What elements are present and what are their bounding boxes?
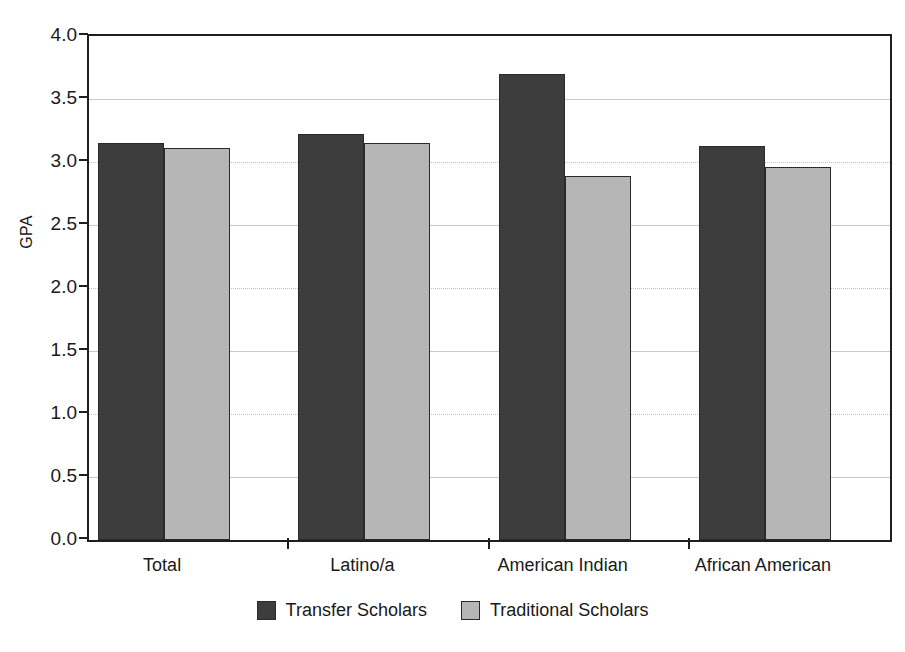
bar bbox=[499, 74, 565, 540]
chart-legend: Transfer ScholarsTraditional Scholars bbox=[0, 600, 905, 620]
bar bbox=[98, 143, 164, 540]
x-axis-category-label: American Indian bbox=[498, 553, 628, 577]
plot-area bbox=[87, 34, 892, 542]
y-axis-tick-labels: 0.00.51.01.52.02.53.03.54.0 bbox=[12, 34, 77, 538]
y-tick-label: 3.0 bbox=[17, 151, 77, 170]
x-axis-tick-marks bbox=[87, 538, 888, 550]
legend-item: Traditional Scholars bbox=[461, 600, 648, 620]
legend-swatch-icon bbox=[257, 601, 276, 620]
legend-label: Transfer Scholars bbox=[286, 600, 427, 620]
y-tick-label: 0.0 bbox=[17, 529, 77, 548]
y-tick-label: 1.0 bbox=[17, 403, 77, 422]
x-axis-labels: TotalLatino/aAmerican IndianAfrican Amer… bbox=[87, 553, 888, 583]
bar bbox=[164, 148, 230, 540]
y-tick-label: 0.5 bbox=[17, 466, 77, 485]
x-axis-category-label: Total bbox=[143, 553, 181, 577]
bar bbox=[765, 167, 831, 540]
legend-item: Transfer Scholars bbox=[257, 600, 427, 620]
y-tick-label: 2.0 bbox=[17, 277, 77, 296]
x-tick-mark bbox=[287, 538, 289, 549]
legend-label: Traditional Scholars bbox=[490, 600, 648, 620]
x-tick-mark bbox=[688, 538, 690, 549]
gpa-bar-chart: GPA 0.00.51.01.52.02.53.03.54.0 TotalLat… bbox=[0, 0, 905, 652]
legend-swatch-icon bbox=[461, 601, 480, 620]
x-axis-category-label: African American bbox=[695, 553, 831, 577]
x-axis-category-label: Latino/a bbox=[330, 553, 394, 577]
bar bbox=[364, 143, 430, 540]
y-tick-label: 2.5 bbox=[17, 214, 77, 233]
bar bbox=[298, 134, 364, 540]
y-tick-label: 1.5 bbox=[17, 340, 77, 359]
bars-layer bbox=[89, 36, 890, 540]
bar bbox=[565, 176, 631, 540]
y-tick-label: 3.5 bbox=[17, 88, 77, 107]
y-tick-label: 4.0 bbox=[17, 25, 77, 44]
x-tick-mark bbox=[488, 538, 490, 549]
bar bbox=[699, 146, 765, 540]
